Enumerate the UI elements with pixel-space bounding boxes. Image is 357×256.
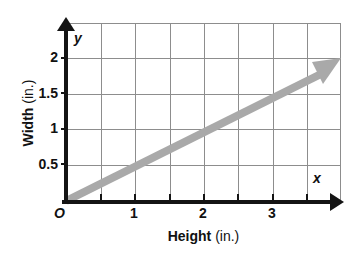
x-axis-tick-label: 1 bbox=[114, 205, 154, 221]
x-axis-tick bbox=[306, 194, 308, 201]
y-axis-arrow-icon bbox=[57, 17, 75, 31]
origin-label: O bbox=[54, 205, 65, 221]
y-axis-letter-label: y bbox=[74, 30, 82, 46]
x-axis-tick bbox=[100, 194, 102, 201]
x-axis-tick bbox=[272, 194, 274, 201]
x-axis-title-unit: (in.) bbox=[215, 228, 239, 244]
y-axis-tick bbox=[61, 163, 68, 165]
y-axis-title-unit: (in.) bbox=[20, 80, 36, 104]
x-axis-letter-label: x bbox=[313, 170, 321, 186]
series-ray-segment bbox=[66, 71, 327, 201]
y-axis-title: Width (in.) bbox=[20, 23, 36, 203]
x-axis-tick bbox=[237, 194, 239, 201]
x-axis-title: Height (in.) bbox=[66, 228, 341, 244]
y-axis-title-text: Width bbox=[20, 108, 36, 147]
x-axis-tick bbox=[134, 194, 136, 201]
chart-figure: 1 2 3 0.5 1 1.5 2 O y x Height (in.) Wid… bbox=[0, 0, 357, 256]
x-axis-tick bbox=[203, 194, 205, 201]
x-axis bbox=[62, 200, 334, 204]
x-axis-arrow-icon bbox=[330, 193, 344, 211]
x-axis-tick-label: 2 bbox=[183, 205, 223, 221]
x-axis-tick-label: 3 bbox=[252, 205, 292, 221]
series-ray bbox=[66, 58, 341, 201]
x-axis-tick bbox=[169, 194, 171, 201]
y-axis-tick bbox=[61, 128, 68, 130]
y-axis-tick bbox=[61, 92, 68, 94]
x-axis-title-text: Height bbox=[168, 228, 212, 244]
y-axis-tick bbox=[61, 57, 68, 59]
